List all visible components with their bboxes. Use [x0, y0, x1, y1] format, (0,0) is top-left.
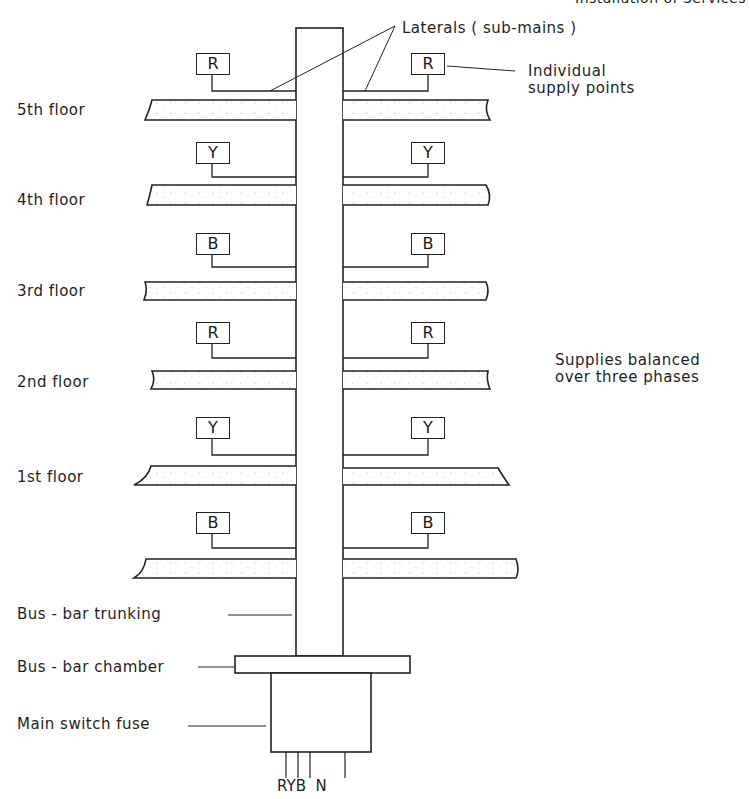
balanced-line-1: Supplies balanced — [555, 352, 700, 369]
phase-box-1-right: Y — [411, 417, 445, 439]
phase-box-g-right: B — [411, 512, 445, 534]
fuse-label: Main switch fuse — [17, 716, 150, 733]
chamber-label: Bus - bar chamber — [17, 659, 164, 676]
phase-box-5-right: R — [411, 53, 445, 75]
conductor-labels: RYB N — [277, 778, 327, 795]
slab-1-left — [134, 466, 296, 485]
slab-3-left — [144, 282, 296, 300]
laterals-label: Laterals ( sub-mains ) — [402, 20, 577, 37]
phase-box-2-right: R — [411, 322, 445, 344]
riser-diagram — [0, 0, 750, 799]
slab-1-right — [343, 468, 509, 485]
phase-box-1-left: Y — [196, 417, 230, 439]
slab-5-right — [343, 100, 490, 120]
header-partial: Installation of Services — [575, 0, 746, 7]
phase-box-3-left: B — [196, 233, 230, 255]
floor-label-5: 5th floor — [17, 102, 85, 119]
floor-label-3: 3rd floor — [17, 283, 85, 300]
trunking-label: Bus - bar trunking — [17, 606, 161, 623]
slab-3-right — [343, 282, 488, 300]
individual-line-1: Individual — [528, 63, 635, 80]
floor-label-4: 4th floor — [17, 192, 85, 209]
slab-4-right — [343, 185, 490, 205]
slab-4-left — [147, 185, 296, 205]
busbar-trunking — [296, 28, 343, 656]
phase-box-4-left: Y — [196, 142, 230, 164]
slab-5-left — [145, 100, 296, 120]
slab-g-right — [343, 559, 518, 578]
main-switch-fuse — [271, 673, 371, 752]
phase-box-g-left: B — [196, 512, 230, 534]
phase-box-4-right: Y — [411, 142, 445, 164]
phase-box-3-right: B — [411, 233, 445, 255]
phase-box-2-left: R — [196, 322, 230, 344]
slab-2-left — [151, 371, 296, 389]
individual-line-2: supply points — [528, 80, 635, 97]
floor-label-1: 1st floor — [17, 469, 83, 486]
slab-g-left — [134, 559, 296, 578]
individual-supply-label: Individual supply points — [528, 63, 635, 97]
balanced-label: Supplies balanced over three phases — [555, 352, 700, 386]
busbar-chamber — [235, 656, 410, 673]
slab-2-right — [343, 371, 490, 389]
balanced-line-2: over three phases — [555, 369, 700, 386]
floor-label-2: 2nd floor — [17, 374, 89, 391]
phase-box-5-left: R — [196, 53, 230, 75]
